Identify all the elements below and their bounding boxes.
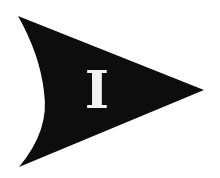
arrow-letter: I	[80, 62, 114, 118]
